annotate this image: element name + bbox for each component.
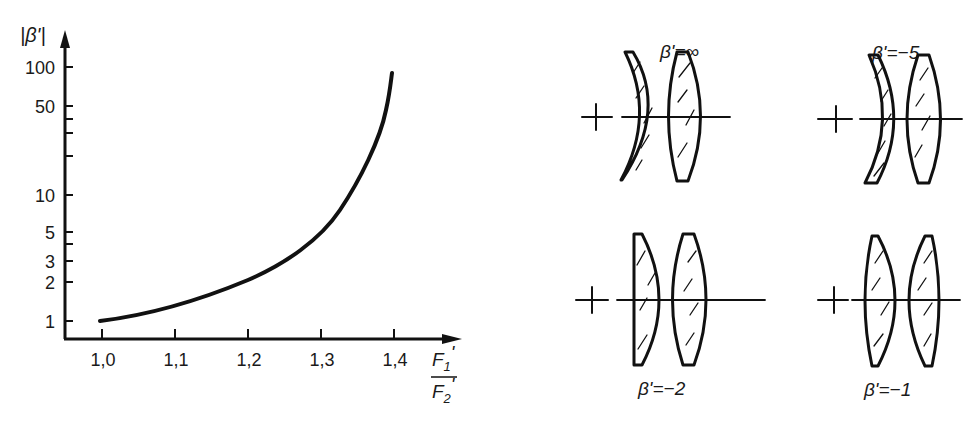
x-tick-1-2: 1,2: [236, 350, 261, 370]
x-tick-1-4: 1,4: [382, 350, 407, 370]
x-tick-1-3: 1,3: [309, 350, 334, 370]
y-tick-labels: 100 50 10 5 3 2 1: [25, 58, 55, 332]
hatching: [872, 251, 932, 346]
lens-diagram-infinity: β'=∞: [582, 41, 730, 181]
data-curve: [100, 73, 392, 321]
y-tick-50: 50: [35, 97, 55, 117]
y-tick-3: 3: [45, 252, 55, 272]
y-tick-10: 10: [35, 186, 55, 206]
chart: 100 50 10 5 3 2 1 |β'| 1,0 1,1 1,2 1,3 1…: [20, 24, 462, 406]
lens-diagram-minus-5: β'=−5: [818, 42, 962, 183]
y-axis-label: |β'|: [20, 24, 46, 46]
label-beta-minus-2: β'=−2: [637, 378, 686, 399]
lens-diagram-minus-1: β'=−1: [818, 236, 960, 400]
label-beta-minus-5: β'=−5: [871, 42, 920, 63]
x-label-numerator: F1': [432, 342, 456, 374]
x-axis-label: F1' F2': [431, 342, 457, 406]
figure-canvas: 100 50 10 5 3 2 1 |β'| 1,0 1,1 1,2 1,3 1…: [0, 0, 974, 429]
y-tick-5: 5: [45, 223, 55, 243]
lens-diagram-minus-2: β'=−2: [576, 234, 765, 399]
label-beta-minus-1: β'=−1: [863, 379, 911, 400]
x-tick-1-1: 1,1: [163, 350, 188, 370]
x-tick-labels: 1,0 1,1 1,2 1,3 1,4: [90, 350, 407, 370]
lens-diagrams: β'=∞ β'=−5: [576, 41, 962, 400]
y-tick-2: 2: [45, 273, 55, 293]
x-tick-1-0: 1,0: [90, 350, 115, 370]
y-tick-100: 100: [25, 58, 55, 78]
x-label-denominator: F2': [432, 374, 456, 406]
y-ticks: [65, 67, 73, 321]
y-tick-1: 1: [45, 312, 55, 332]
hatching: [633, 62, 694, 170]
y-axis-arrow-icon: [60, 30, 70, 48]
